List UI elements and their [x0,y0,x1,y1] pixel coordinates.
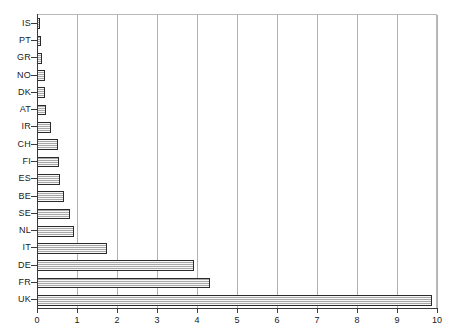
bar-se [37,209,70,220]
bar-row [37,70,436,81]
x-tick-label: 2 [102,315,132,326]
y-tick-label: DE [5,260,31,270]
x-tick-label: 7 [302,315,332,326]
bar-uk [37,295,432,306]
bar-es [37,174,60,185]
x-tick-2 [117,308,118,313]
bar-dk [37,87,45,98]
x-tick-label: 5 [222,315,252,326]
y-tick-it [31,247,37,248]
bar-row [37,174,436,185]
y-tick-at [31,109,37,110]
bar-row [37,260,436,271]
x-tick-4 [197,308,198,313]
y-axis-line [37,14,38,308]
y-tick-se [31,213,37,214]
bar-be [37,191,64,202]
bar-no [37,70,45,81]
y-tick-ir [31,126,37,127]
bar-row [37,226,436,237]
bar-row [37,105,436,116]
x-tick-label: 0 [22,315,52,326]
bar-row [37,295,436,306]
y-tick-nl [31,230,37,231]
y-tick-label: GR [5,52,31,62]
y-tick-es [31,178,37,179]
x-tick-1 [77,308,78,313]
y-tick-label: BE [5,191,31,201]
y-tick-label: UK [5,294,31,304]
y-tick-label: FI [5,156,31,166]
y-tick-label: AT [5,104,31,114]
x-tick-label: 3 [142,315,172,326]
bar-ch [37,139,58,150]
x-tick-10 [437,308,438,313]
y-tick-no [31,75,37,76]
y-axis-labels: ISPTGRNODKATIRCHFIESBESENLITDEFRUK [0,0,31,335]
x-tick-5 [237,308,238,313]
bar-row [37,87,436,98]
bar-at [37,105,46,116]
bar-row [37,18,436,29]
bar-fi [37,157,59,168]
y-tick-fr [31,282,37,283]
x-tick-0 [37,308,38,313]
bar-row [37,53,436,64]
y-tick-fi [31,161,37,162]
x-tick-7 [317,308,318,313]
bar-row [37,191,436,202]
x-tick-8 [357,308,358,313]
bar-row [37,122,436,133]
bar-row [37,243,436,254]
x-tick-label: 4 [182,315,212,326]
bar-row [37,278,436,289]
bars-layer [37,15,436,308]
bar-it [37,243,107,254]
y-tick-label: PT [5,35,31,45]
y-tick-label: IR [5,121,31,131]
y-tick-label: NO [5,70,31,80]
x-tick-label: 6 [262,315,292,326]
y-tick-label: ES [5,173,31,183]
bar-row [37,209,436,220]
bar-fr [37,278,210,289]
y-tick-label: FR [5,277,31,287]
bar-ir [37,122,51,133]
y-tick-uk [31,299,37,300]
y-tick-dk [31,92,37,93]
y-tick-de [31,265,37,266]
x-tick-label: 8 [342,315,372,326]
bar-row [37,139,436,150]
y-tick-label: CH [5,139,31,149]
x-tick-label: 1 [62,315,92,326]
y-tick-label: NL [5,225,31,235]
y-tick-label: IS [5,18,31,28]
x-tick-3 [157,308,158,313]
x-tick-label: 10 [422,315,452,326]
x-tick-9 [397,308,398,313]
bar-chart: ISPTGRNODKATIRCHFIESBESENLITDEFRUK 01234… [0,0,454,335]
y-tick-label: IT [5,242,31,252]
y-tick-pt [31,40,37,41]
y-tick-label: SE [5,208,31,218]
y-tick-gr [31,57,37,58]
bar-nl [37,226,74,237]
y-tick-is [31,23,37,24]
bar-row [37,36,436,47]
y-tick-label: DK [5,87,31,97]
plot-area [37,14,437,308]
x-tick-6 [277,308,278,313]
gridline-x-10 [437,15,438,308]
y-tick-be [31,196,37,197]
bar-de [37,260,194,271]
x-tick-label: 9 [382,315,412,326]
bar-row [37,157,436,168]
y-tick-ch [31,144,37,145]
